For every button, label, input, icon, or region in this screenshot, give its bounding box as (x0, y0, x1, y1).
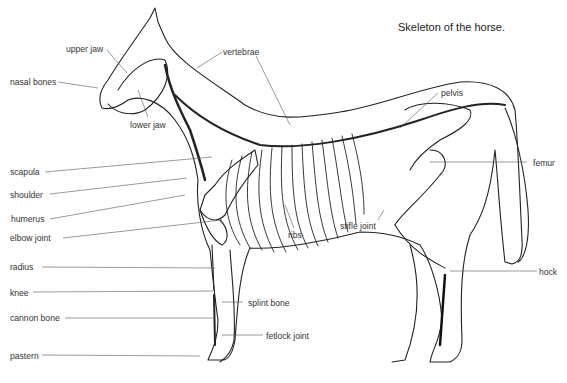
label-cannon-bone: cannon bone (10, 313, 60, 323)
tibia-bone (395, 225, 445, 268)
label-radius: radius (10, 262, 33, 272)
label-fetlock-joint: fetlock joint (266, 331, 309, 341)
label-pelvis: pelvis (441, 88, 463, 98)
leader-humerus (50, 195, 185, 219)
leader-shoulder (50, 178, 187, 194)
scapula-bone (200, 150, 258, 220)
label-scapula: scapula (10, 167, 40, 177)
label-splint-bone: splint bone (248, 298, 290, 308)
horse-skeleton-drawing (0, 0, 567, 383)
leader-pelvis (400, 93, 438, 128)
neck-vertebrae (165, 65, 205, 180)
label-hock: hock (539, 267, 557, 277)
label-nasal-bones: nasal bones (10, 77, 56, 87)
leader-stifle-joint (378, 210, 384, 220)
diagram-title: Skeleton of the horse. (398, 21, 505, 33)
leader-upper-jaw (107, 50, 127, 73)
label-humerus: humerus (11, 214, 44, 224)
horse-outline (100, 8, 522, 362)
label-upper-jaw: upper jaw (66, 44, 103, 54)
leader-scapula (45, 157, 212, 172)
cannon-bone (214, 295, 215, 345)
leader-nasal-bones (58, 82, 98, 88)
label-femur: femur (533, 158, 555, 168)
leader-knee (33, 291, 213, 292)
skull (108, 59, 168, 114)
label-pastern: pastern (10, 351, 39, 361)
leader-vertebrae-2 (256, 56, 290, 125)
spine (175, 95, 505, 146)
label-knee: knee (10, 288, 29, 298)
label-lower-jaw: lower jaw (130, 120, 166, 130)
label-vertebrae: vertebrae (223, 47, 259, 57)
leader-elbow-joint (63, 220, 222, 238)
leader-ribs (285, 205, 294, 228)
label-stifle-joint: stifle joint (340, 221, 376, 231)
label-ribs: ribs (288, 230, 302, 240)
far-foreleg (220, 250, 235, 362)
leader-vertebrae (197, 52, 222, 68)
leader-radius (42, 267, 215, 268)
femur-bone (395, 150, 445, 225)
label-shoulder: shoulder (10, 190, 43, 200)
far-hindleg (392, 245, 417, 362)
leader-pastern (42, 355, 200, 356)
label-elbow-joint: elbow joint (10, 233, 51, 243)
leader-lower-jaw (138, 90, 148, 117)
